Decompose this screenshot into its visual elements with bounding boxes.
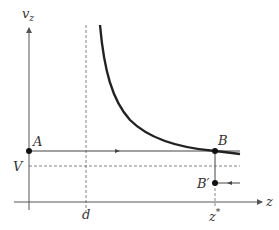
point-Bprime <box>212 180 218 186</box>
Bprime-arrow-icon <box>227 181 232 185</box>
x-axis-label: z <box>265 194 273 209</box>
label-d: d <box>82 207 90 222</box>
phase-diagram: vz z A B B′ V d z* <box>0 0 279 230</box>
label-V: V <box>13 159 24 174</box>
label-A: A <box>32 134 42 149</box>
y-axis-label: vz <box>22 6 34 23</box>
label-B: B <box>217 133 228 148</box>
label-Bprime: B′ <box>196 176 210 191</box>
point-B <box>212 148 218 154</box>
A-B-arrow-icon <box>115 149 120 153</box>
point-A <box>26 148 32 154</box>
label-zstar: z* <box>208 207 221 224</box>
